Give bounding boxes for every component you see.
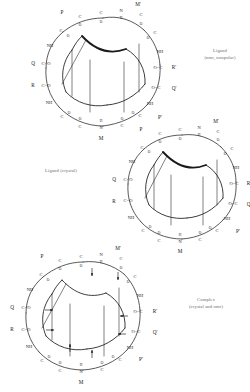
svg-text:NH: NH (26, 344, 33, 349)
svg-text:O: O (59, 361, 62, 365)
svg-text:C: C (138, 113, 141, 118)
svg-text:C=O: C=O (124, 198, 134, 203)
svg-text:C: C (120, 123, 123, 128)
svg-text:R: R (112, 198, 116, 204)
svg-text:O: O (224, 152, 227, 156)
svg-text:Q': Q' (247, 201, 250, 207)
svg-text:N: N (119, 8, 123, 13)
svg-text:R: R (31, 82, 35, 88)
svg-text:R': R' (172, 64, 176, 70)
svg-text:C: C (133, 274, 136, 279)
svg-text:C: C (198, 237, 201, 242)
svg-text:O: O (121, 117, 124, 121)
panel-a-residue-labels: P M' R' Q' P' M Q R (31, 1, 176, 141)
svg-text:O=C: O=C (134, 309, 143, 314)
svg-text:C=O: C=O (42, 83, 52, 88)
svg-text:C: C (158, 131, 161, 136)
svg-text:O: O (217, 138, 220, 142)
svg-text:NH: NH (233, 165, 240, 170)
svg-text:C: C (215, 228, 218, 233)
panel-ligand-nmr: C O N H C O C O NH O=C O=C NH C O C O N … (31, 1, 176, 141)
svg-text:C: C (78, 124, 81, 129)
svg-text:NH: NH (46, 100, 53, 105)
svg-text:O: O (158, 231, 161, 235)
svg-text:M': M' (135, 1, 141, 7)
svg-text:R': R' (153, 308, 157, 314)
caption-ligand-crystal-line1: Ligand (crystal) (30, 168, 92, 175)
svg-text:P: P (41, 253, 44, 259)
panel-c-residue-labels: P M' R' Q' P' M Q R (10, 245, 157, 385)
svg-text:M: M (79, 379, 84, 385)
svg-text:P': P' (236, 228, 240, 234)
svg-text:H: H (100, 260, 103, 264)
svg-text:O: O (179, 137, 182, 141)
svg-text:C: C (119, 256, 122, 261)
svg-text:C: C (58, 368, 61, 373)
panel-a-hbond-network (62, 36, 145, 112)
svg-text:P: P (140, 126, 143, 132)
svg-text:C: C (99, 10, 102, 15)
svg-text:O: O (100, 20, 103, 24)
svg-text:O: O (140, 22, 143, 26)
caption-complex: Complex (crystal and nmr) (172, 297, 240, 310)
svg-text:C: C (40, 358, 43, 363)
svg-text:C: C (157, 238, 160, 243)
svg-text:P: P (61, 9, 64, 15)
svg-text:O: O (127, 280, 130, 284)
svg-text:C: C (216, 129, 219, 134)
svg-text:O: O (120, 266, 123, 270)
panel-a-atom-labels: C O N H C O C O NH O=C O=C NH C O C O N … (42, 8, 164, 130)
figure-canvas: .bond{stroke:#1a1a1a;fill:none;stroke-wi… (0, 0, 250, 392)
svg-text:O: O (149, 225, 152, 229)
caption-ligand-crystal: Ligand (crystal) (30, 168, 92, 175)
svg-text:NH: NH (27, 287, 34, 292)
svg-text:O=C: O=C (154, 65, 163, 70)
svg-text:O: O (132, 111, 135, 115)
svg-text:C: C (59, 28, 62, 33)
svg-text:O=C: O=C (132, 329, 141, 334)
svg-text:M': M' (213, 118, 219, 124)
svg-text:H: H (179, 233, 182, 237)
svg-text:C: C (178, 127, 181, 132)
svg-text:C: C (60, 114, 63, 119)
panel-c-atom-labels: C O N H C O C O NH O=C O=C NH C O C O N … (22, 252, 144, 374)
svg-text:C: C (100, 367, 103, 372)
svg-text:O: O (148, 150, 151, 154)
svg-text:Q: Q (10, 304, 14, 310)
svg-text:O: O (47, 278, 50, 282)
svg-text:P': P' (139, 356, 143, 362)
svg-text:O=C: O=C (230, 181, 239, 186)
svg-text:NH: NH (47, 43, 54, 48)
svg-text:Q: Q (31, 60, 35, 66)
svg-text:O: O (79, 117, 82, 121)
panel-b-atom-labels: C O N H C O C O NH O=C O=C NH C O C O N … (124, 125, 240, 244)
svg-text:C: C (58, 258, 61, 263)
svg-text:O: O (48, 355, 51, 359)
svg-text:R: R (10, 326, 14, 332)
svg-text:C: C (139, 12, 142, 17)
caption-ligand-nmr: Ligand (nmr, nonpolar) (192, 48, 248, 61)
svg-text:O: O (209, 226, 212, 230)
svg-text:O: O (147, 36, 150, 40)
svg-text:O: O (101, 361, 104, 365)
svg-text:O: O (159, 140, 162, 144)
svg-text:Q: Q (112, 176, 116, 182)
svg-text:NH: NH (128, 215, 135, 220)
svg-text:C=O: C=O (124, 177, 134, 182)
svg-text:NH: NH (137, 293, 144, 298)
svg-text:P': P' (158, 114, 162, 120)
svg-text:O: O (67, 34, 70, 38)
svg-text:H: H (198, 133, 201, 137)
svg-text:R': R' (247, 180, 250, 186)
svg-text:O: O (68, 111, 71, 115)
panel-b-backbone (128, 135, 236, 239)
caption-complex-line2: (crystal and nmr) (172, 304, 240, 311)
svg-text:M': M' (115, 245, 121, 251)
panel-c-hbond-network (42, 280, 125, 356)
svg-text:N: N (99, 252, 103, 257)
svg-text:C=O: C=O (42, 61, 52, 66)
caption-ligand-nmr-line1: Ligand (192, 48, 248, 55)
svg-text:C: C (78, 14, 81, 19)
svg-text:M: M (178, 248, 183, 254)
svg-text:O: O (79, 23, 82, 27)
